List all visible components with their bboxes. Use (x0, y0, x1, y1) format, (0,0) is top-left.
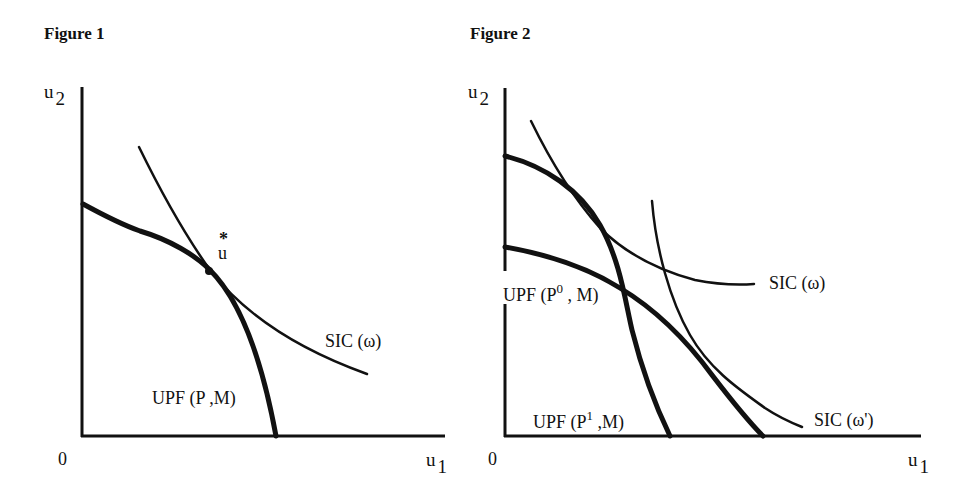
figure-1-title: Figure 1 (44, 24, 105, 44)
fig1-upf-label: UPF (P ,M) (152, 389, 236, 407)
figure-2-title: Figure 2 (470, 24, 531, 44)
fig1-x-axis-label: u1 (426, 450, 447, 476)
fig2-y-axis-label: u2 (468, 82, 489, 108)
fig2-sic-omega-prime-label: SIC (ω') (814, 411, 874, 429)
fig2-upf-p0-label: UPF (P0 , M) (503, 282, 599, 304)
fig1-tangency-point (205, 267, 213, 275)
fig1-origin-label: 0 (58, 450, 67, 468)
fig1-sic-label: SIC (ω) (325, 332, 381, 350)
fig2-x-axis-label: u1 (908, 450, 929, 476)
fig1-y-axis-label: u2 (44, 82, 65, 108)
fig1-point-label: u (218, 244, 227, 262)
fig2-upf-p1-label: UPF (P1 ,M) (533, 409, 624, 431)
fig2-sic-omega-label: SIC (ω) (769, 274, 825, 292)
fig2-origin-label: 0 (488, 450, 497, 468)
